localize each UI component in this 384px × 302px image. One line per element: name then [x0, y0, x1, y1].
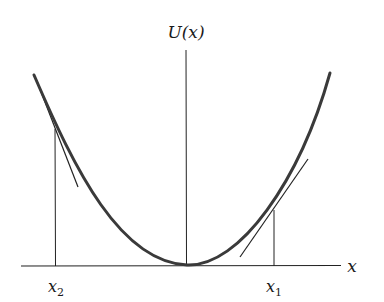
- x2-label-sub: 2: [57, 286, 64, 299]
- x2-label: x2: [48, 277, 64, 299]
- x1-label-main: x: [266, 277, 275, 296]
- potential-curve: [34, 73, 330, 265]
- y-axis-line: [186, 50, 187, 265]
- y-axis-label: U(x): [167, 22, 204, 42]
- x-axis-label: x: [347, 256, 357, 276]
- x1-label-sub: 1: [275, 286, 282, 299]
- diagram-canvas: U(x) x x2 x1: [0, 0, 384, 302]
- x2-marker-line: [55, 129, 56, 266]
- potential-diagram: U(x) x x2 x1: [0, 0, 384, 302]
- x2-label-main: x: [48, 277, 57, 296]
- x1-label: x1: [266, 277, 282, 299]
